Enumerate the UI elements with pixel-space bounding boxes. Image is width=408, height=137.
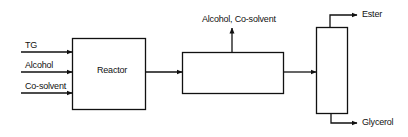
product-label-ester: Ester: [362, 9, 382, 19]
input-label-cosolvent: Co-solvent: [25, 81, 66, 91]
separator-column: [317, 28, 348, 114]
product-label-glycerol: Glycerol: [362, 117, 393, 127]
ester-arrow: [330, 15, 357, 27]
recycle-label: Alcohol, Co-solvent: [202, 14, 276, 24]
input-label-alcohol: Alcohol: [25, 60, 53, 70]
glycerol-arrow: [331, 113, 357, 123]
input-label-tg: TG: [25, 40, 37, 50]
evaporator-box: [183, 53, 284, 94]
reactor-label: Reactor: [97, 65, 127, 75]
